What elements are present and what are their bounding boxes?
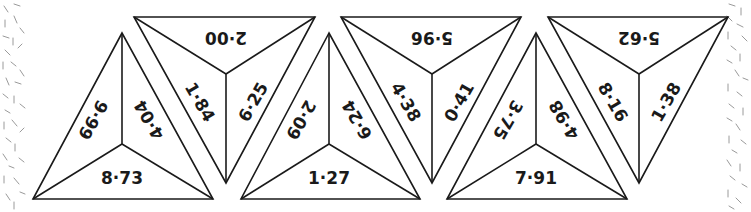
piece-label-bottom: 7·91 bbox=[515, 168, 557, 188]
piece-label-top: 2·00 bbox=[205, 28, 247, 48]
puzzle-pieces: 9·99 4·04 8·73 2·00 1·84 6·25 2·09 6·24 … bbox=[0, 0, 751, 212]
piece-label-bottom: 8·73 bbox=[101, 168, 143, 188]
piece-label-bottom: 1·27 bbox=[308, 168, 350, 188]
piece-label-top: 5·62 bbox=[618, 28, 660, 48]
piece-label-top: 5·96 bbox=[411, 28, 453, 48]
